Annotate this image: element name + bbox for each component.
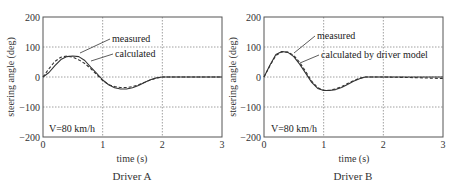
y-tick-labels: 2001000−100−200 <box>240 12 261 143</box>
series-line-calculated <box>43 56 222 88</box>
pointer-measured <box>80 39 110 53</box>
x-tick-label: 1 <box>100 139 105 150</box>
pointer-calculated <box>300 55 319 63</box>
x-tick-label: 2 <box>381 139 386 150</box>
y-axis-label: steering angle (deg) <box>227 37 239 116</box>
x-tick-label: 0 <box>262 139 267 150</box>
y-tick-label: −200 <box>240 132 261 143</box>
y-tick-label: 0 <box>256 72 261 83</box>
y-tick-label: −200 <box>19 132 40 143</box>
x-tick-labels: 0123 <box>262 139 446 150</box>
y-tick-label: 200 <box>25 12 40 23</box>
y-tick-labels: 2001000−100−200 <box>19 12 40 143</box>
chart-panel-driver-a: 2001000−100−200 0123 steering angle (deg… <box>0 0 226 191</box>
caption-driver-b: Driver B <box>303 170 403 182</box>
speed-annotation: V=80 km/h <box>271 123 317 134</box>
y-tick-label: 0 <box>35 72 40 83</box>
y-axis-label: steering angle (deg) <box>5 37 17 116</box>
chart-svg-driver-b: 2001000−100−200 0123 steering angle (deg… <box>226 0 453 191</box>
label-calculated: calculated <box>115 48 156 59</box>
y-tick-label: −100 <box>19 102 40 113</box>
label-measured: measured <box>317 30 355 41</box>
y-tick-label: −100 <box>240 102 261 113</box>
pointer-calculated <box>91 54 113 61</box>
y-tick-label: 200 <box>246 12 261 23</box>
y-tick-label: 100 <box>25 42 40 53</box>
x-axis-label: time (s) <box>339 153 370 165</box>
x-axis-label: time (s) <box>117 153 148 165</box>
caption-driver-a: Driver A <box>82 170 182 182</box>
label-calculated: calculated by driver model <box>321 49 428 60</box>
speed-annotation: V=80 km/h <box>49 123 95 134</box>
pointer-measured <box>294 36 315 53</box>
data-series <box>43 56 222 89</box>
series-line-measured <box>43 56 222 89</box>
x-tick-label: 3 <box>220 139 225 150</box>
x-tick-label: 1 <box>321 139 326 150</box>
x-tick-label: 3 <box>441 139 446 150</box>
x-tick-labels: 0123 <box>41 139 225 150</box>
chart-panel-driver-b: 2001000−100−200 0123 steering angle (deg… <box>226 0 453 191</box>
y-tick-label: 100 <box>246 42 261 53</box>
x-tick-label: 0 <box>41 139 46 150</box>
x-tick-label: 2 <box>160 139 165 150</box>
chart-svg-driver-a: 2001000−100−200 0123 steering angle (deg… <box>0 0 226 191</box>
label-measured: measured <box>112 33 150 44</box>
